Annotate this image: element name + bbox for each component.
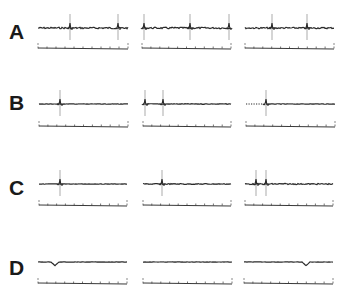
trace-line xyxy=(142,27,231,29)
trace-line xyxy=(143,104,231,105)
electrophysiology-traces xyxy=(0,0,342,295)
trace-line xyxy=(38,262,127,266)
trace-line xyxy=(143,184,231,185)
trace-line xyxy=(244,262,333,266)
trace-line xyxy=(38,27,128,29)
trace-line xyxy=(245,27,334,28)
